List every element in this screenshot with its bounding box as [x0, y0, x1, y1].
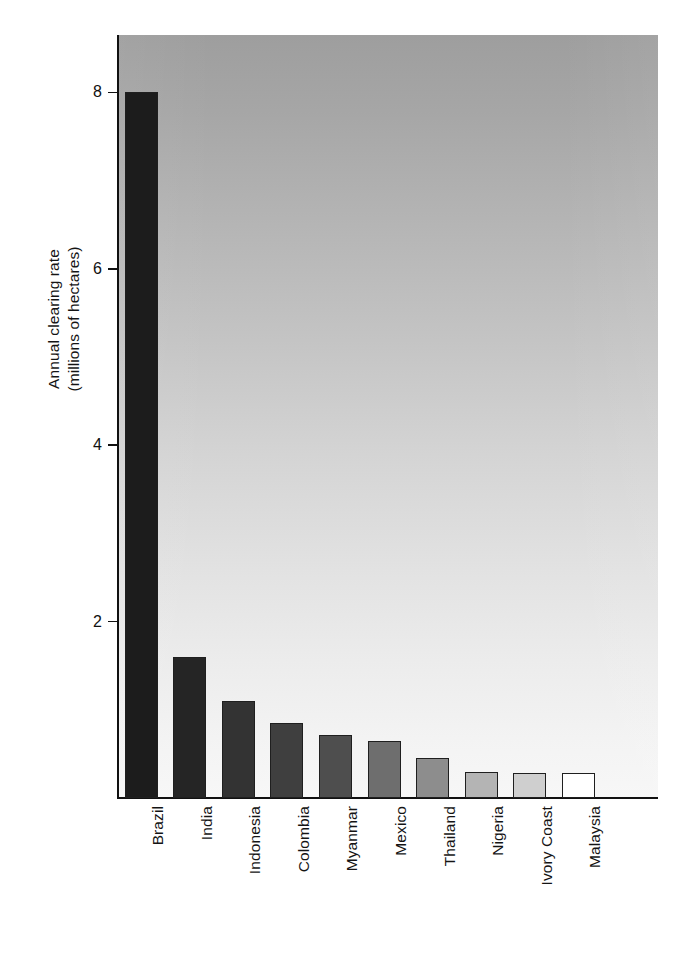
bar — [562, 773, 595, 798]
y-axis-tick-label: 6 — [74, 261, 102, 277]
bar — [270, 723, 303, 798]
y-axis-tick-label: 8 — [74, 84, 102, 100]
bar — [416, 758, 449, 798]
y-axis-tick-mark — [108, 621, 118, 623]
x-axis-category-label: Nigeria — [489, 806, 506, 976]
y-axis-title: Annual clearing rate (millions of hectar… — [41, 169, 87, 469]
bar — [368, 741, 401, 798]
bar — [173, 657, 206, 798]
x-axis-category-label: Indonesia — [246, 806, 263, 976]
bar — [222, 701, 255, 798]
bar-chart-figure: Annual clearing rate (millions of hectar… — [0, 0, 678, 979]
x-axis-category-label: Colombia — [295, 806, 312, 976]
bar — [319, 735, 352, 799]
bar-series — [118, 35, 658, 798]
y-axis-tick-label: 4 — [74, 437, 102, 453]
x-axis-category-label: Myanmar — [343, 806, 360, 976]
y-axis-tick-mark — [108, 92, 118, 94]
bar — [125, 92, 158, 798]
x-axis-category-label: Mexico — [392, 806, 409, 976]
bar — [513, 773, 546, 798]
x-axis-category-label: India — [198, 806, 215, 976]
x-axis-category-label: Thailand — [441, 806, 458, 976]
y-axis-tick-mark — [108, 268, 118, 270]
x-axis-category-label: Brazil — [149, 806, 166, 976]
x-axis-category-label: Malaysia — [586, 806, 603, 976]
y-axis-title-line-1: Annual clearing rate — [44, 249, 64, 389]
bar — [465, 772, 498, 798]
y-axis-tick-label: 2 — [74, 614, 102, 630]
x-axis-category-label: Ivory Coast — [538, 806, 555, 976]
y-axis-tick-mark — [108, 444, 118, 446]
